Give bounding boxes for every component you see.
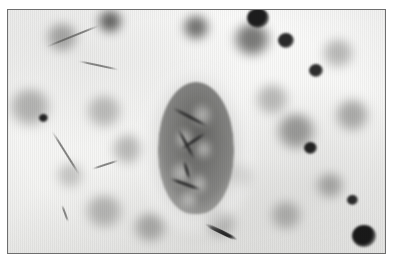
cyst-vacuole [179,189,197,213]
stained-nucleus [278,33,294,48]
specimen-field [8,10,385,253]
central-cyst-body [158,82,234,214]
stained-nucleus [304,142,317,154]
photomicrograph-figure [0,0,395,265]
stained-nucleus [309,64,323,77]
micrograph-frame [7,9,386,254]
stained-nucleus [347,195,358,205]
stained-nucleus [39,114,48,122]
cyst-vacuole [195,137,212,163]
figure-caption [0,256,395,265]
cyst-vacuole [192,102,212,131]
stained-nucleus [352,225,376,247]
